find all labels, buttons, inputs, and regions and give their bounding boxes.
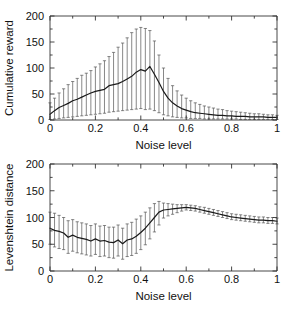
y-tick-label: 200 [26,10,44,22]
x-axis-label: Noise level [135,290,191,302]
y-tick-label: 150 [26,185,44,197]
x-tick-label: 0.2 [88,122,103,134]
y-tick-label: 50 [32,88,44,100]
y-tick-label: 150 [26,36,44,48]
x-tick-label: 0.4 [133,273,148,285]
cumulative-reward-plot: 00.20.40.60.81050100150200Noise levelCum… [0,0,294,155]
cumulative-reward-panel: 00.20.40.60.81050100150200Noise levelCum… [0,0,294,155]
x-tick-label: 0 [47,273,53,285]
x-tick-label: 0.8 [224,122,239,134]
y-tick-label: 0 [38,114,44,126]
x-tick-label: 0.4 [133,122,148,134]
figure-root: 00.20.40.60.81050100150200Noise levelCum… [0,0,294,311]
levenshtein-distance-svg: 00.20.40.60.81050100150200Noise levelLev… [0,155,294,311]
y-tick-label: 100 [26,212,44,224]
y-axis-label: Cumulative reward [3,20,15,116]
x-tick-label: 1 [274,122,280,134]
x-tick-label: 0.6 [179,122,194,134]
x-tick-label: 0 [47,122,53,134]
y-tick-label: 100 [26,62,44,74]
levenshtein-distance-panel: 00.20.40.60.81050100150200Noise levelLev… [0,155,294,311]
cumulative-reward-svg: 00.20.40.60.81050100150200Noise levelCum… [0,0,294,155]
x-tick-label: 0.8 [224,273,239,285]
levenshtein-distance-plot: 00.20.40.60.81050100150200Noise levelLev… [0,155,294,311]
y-axis-label: Levenshtein distance [3,163,15,271]
x-axis-label: Noise level [135,139,191,151]
x-tick-label: 1 [274,273,280,285]
error-bars-group [48,27,278,119]
y-tick-label: 0 [38,265,44,277]
y-tick-label: 50 [32,238,44,250]
x-tick-label: 0.2 [88,273,103,285]
x-tick-label: 0.6 [179,273,194,285]
y-tick-label: 200 [26,158,44,170]
